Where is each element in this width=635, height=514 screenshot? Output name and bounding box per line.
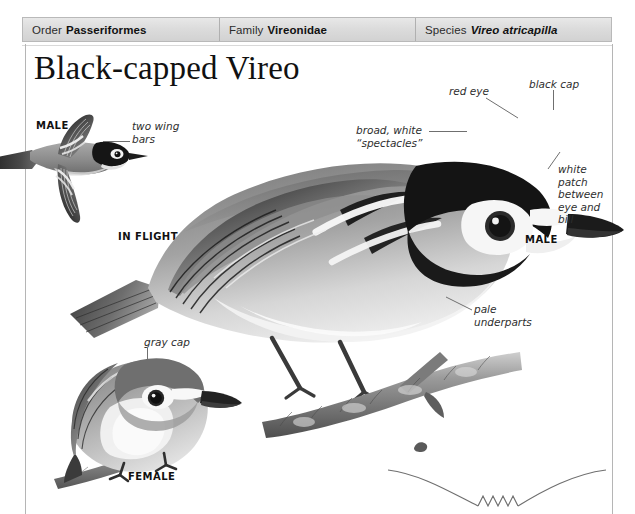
taxonomy-rank-family: Family <box>229 24 263 36</box>
taxonomy-cell-order: Order Passeriformes <box>23 18 219 41</box>
field-guide-page: Order Passeriformes Family Vireonidae Sp… <box>0 0 635 514</box>
callout-black-cap: black cap <box>529 78 579 91</box>
callout-pale-underparts: pale underparts <box>474 303 532 328</box>
leader-gray-cap <box>147 348 148 366</box>
callout-white-patch: white patch between eye and bill <box>558 163 603 226</box>
page-title: Black-capped Vireo <box>34 50 300 87</box>
leader-white-patch <box>546 152 564 176</box>
taxonomy-value-species: Vireo atricapilla <box>471 24 558 36</box>
leader-red-eye <box>486 96 522 126</box>
taxonomy-header-bar: Order Passeriformes Family Vireonidae Sp… <box>22 17 612 42</box>
header-underline <box>22 45 612 46</box>
taxonomy-cell-species: Species Vireo atricapilla <box>415 18 611 41</box>
taxonomy-cell-family: Family Vireonidae <box>219 18 415 41</box>
callout-red-eye: red eye <box>449 85 489 98</box>
taxonomy-value-family: Vireonidae <box>267 24 327 36</box>
bottom-ornament <box>386 448 610 514</box>
taxonomy-rank-species: Species <box>425 24 467 36</box>
branch-illustration <box>258 330 528 448</box>
callout-gray-cap: gray cap <box>144 336 190 349</box>
taxonomy-rank-order: Order <box>32 24 62 36</box>
caption-male-perched: MALE <box>525 234 558 245</box>
leader-black-cap <box>553 90 554 110</box>
taxonomy-value-order: Passeriformes <box>66 24 147 36</box>
caption-female: FEMALE <box>128 471 175 482</box>
leader-pale-underparts <box>446 296 474 318</box>
callout-spectacles: broad, white “spectacles” <box>356 124 422 149</box>
ink-speck <box>412 440 430 454</box>
leader-spectacles <box>429 131 467 132</box>
